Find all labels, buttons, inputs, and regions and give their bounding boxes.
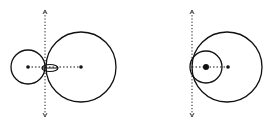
center-dot — [26, 65, 30, 69]
right-figure — [190, 10, 262, 117]
diagram-canvas — [0, 0, 271, 127]
left-figure — [11, 10, 116, 117]
center-dot — [79, 65, 83, 69]
center-dot — [226, 65, 230, 69]
center-dot — [203, 64, 209, 70]
